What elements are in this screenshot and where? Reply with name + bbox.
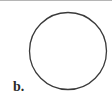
figure-label: b. [13,80,24,94]
circle-shape [30,13,107,90]
